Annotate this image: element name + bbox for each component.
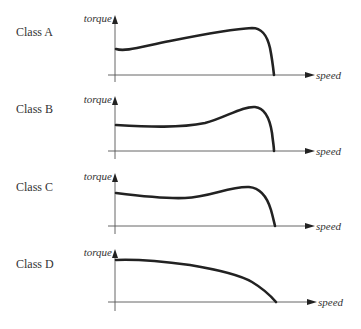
y-axis-arrow-icon: [112, 173, 118, 182]
class-label: Class D: [16, 257, 54, 271]
panel-class-d: Class Dtorquespeed: [16, 246, 344, 311]
panel-class-c: Class Ctorquespeed: [16, 170, 342, 234]
class-label: Class A: [16, 25, 53, 39]
torque-speed-curve: [116, 187, 275, 226]
y-axis-label: torque: [84, 170, 112, 182]
torque-speed-diagram: Class AtorquespeedClass BtorquespeedClas…: [0, 0, 361, 329]
class-label: Class B: [16, 102, 53, 116]
y-axis-arrow-icon: [112, 249, 118, 258]
x-axis-arrow-icon: [305, 72, 315, 78]
torque-speed-curve: [116, 260, 276, 302]
x-axis-label: speed: [316, 220, 342, 232]
x-axis-label: speed: [316, 69, 342, 81]
x-axis-arrow-icon: [307, 299, 317, 305]
torque-speed-curve: [116, 28, 274, 75]
y-axis-label: torque: [84, 246, 112, 258]
panel-class-a: Class Atorquespeed: [16, 12, 342, 82]
y-axis-arrow-icon: [112, 96, 118, 105]
class-label: Class C: [16, 180, 53, 194]
y-axis-label: torque: [84, 93, 112, 105]
y-axis-arrow-icon: [112, 15, 118, 24]
x-axis-label: speed: [316, 145, 342, 157]
x-axis-arrow-icon: [305, 223, 315, 229]
x-axis-arrow-icon: [305, 148, 315, 154]
torque-speed-curve: [116, 107, 274, 151]
x-axis-label: speed: [318, 296, 344, 308]
panel-class-b: Class Btorquespeed: [16, 93, 342, 159]
y-axis-label: torque: [84, 12, 112, 24]
